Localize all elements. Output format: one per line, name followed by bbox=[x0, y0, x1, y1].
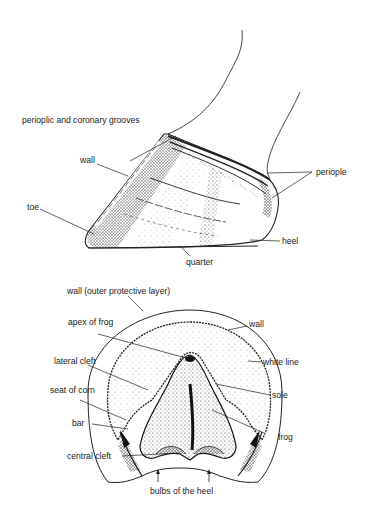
leg-front-outline bbox=[168, 30, 242, 134]
label-frog: frog bbox=[278, 433, 293, 442]
label-sole: sole bbox=[272, 391, 288, 400]
label-wall-side: wall bbox=[80, 156, 95, 165]
label-seat-of-corn: seat of corn bbox=[50, 386, 95, 395]
label-toe: toe bbox=[27, 203, 39, 212]
label-heel: heel bbox=[282, 237, 298, 246]
label-wall-sole: wall bbox=[249, 320, 264, 329]
label-white-line: white line bbox=[263, 358, 299, 367]
label-lateral-cleft: lateral cleft bbox=[54, 357, 96, 366]
leg-back-outline bbox=[267, 92, 300, 178]
label-periople: periople bbox=[316, 168, 347, 177]
label-bar: bar bbox=[72, 419, 84, 428]
side-view-hoof bbox=[40, 30, 312, 256]
label-apex-of-frog: apex of frog bbox=[68, 318, 113, 327]
label-bulbs-of-the-heel: bulbs of the heel bbox=[150, 487, 213, 496]
label-quarter: quarter bbox=[186, 258, 213, 267]
label-wall-outer-protective-layer: wall (outer protective layer) bbox=[67, 287, 170, 296]
label-central-cleft: central cleft bbox=[67, 452, 111, 461]
label-perioplic-coronary-grooves: perioplic and coronary grooves bbox=[22, 116, 140, 125]
